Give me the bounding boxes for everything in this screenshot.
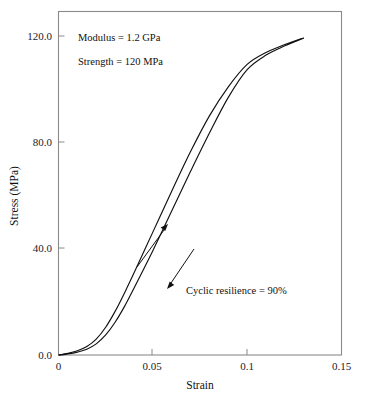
chart-background [0,0,366,397]
y-tick-label-0: 0.0 [38,349,52,361]
x-tick-label-0: 0 [56,360,62,372]
stress-strain-chart: 0 0.05 0.1 0.15 0.0 40.0 80.0 120.0 Stra… [0,0,366,397]
annotation-strength: Strength = 120 MPa [78,56,163,67]
y-axis-title: Stress (MPa) [8,166,21,226]
y-tick-label-3: 120.0 [27,30,52,42]
x-tick-label-2: 0.1 [240,360,254,372]
x-axis-title: Strain [186,379,214,391]
y-tick-label-1: 40.0 [33,242,53,254]
annotation-cyclic-resilience: Cyclic resilience = 90% [186,285,287,296]
x-tick-label-3: 0.15 [332,360,352,372]
y-tick-label-2: 80.0 [33,136,53,148]
chart-page: 0 0.05 0.1 0.15 0.0 40.0 80.0 120.0 Stra… [0,0,366,397]
annotation-modulus: Modulus = 1.2 GPa [78,32,161,43]
x-tick-label-1: 0.05 [142,360,162,372]
